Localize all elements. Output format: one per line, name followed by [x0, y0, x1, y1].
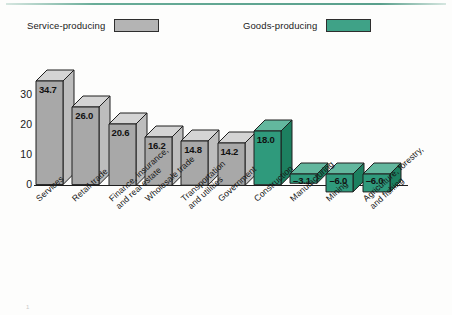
- footnote-marker: 1: [26, 304, 29, 310]
- bar-value-label: 14.8: [184, 144, 202, 155]
- y-axis-tick-10: 10: [8, 148, 32, 160]
- bar-value-label: 20.6: [112, 127, 130, 138]
- bar-value-label: 18.0: [257, 134, 275, 145]
- plot-area: 0102030 34.726.020.616.214.814.218.0–3.1…: [0, 0, 452, 315]
- bar-value-label: 26.0: [75, 110, 93, 121]
- footnote: 1: [26, 303, 426, 314]
- bar-value-label: 34.7: [39, 84, 57, 95]
- y-axis-tick-30: 30: [8, 88, 32, 100]
- y-axis-tick-20: 20: [8, 118, 32, 130]
- bar-value-label: 14.2: [221, 146, 239, 157]
- y-axis-tick-0: 0: [8, 178, 32, 190]
- chart-figure: Service-producing Goods-producing 010203…: [0, 0, 452, 315]
